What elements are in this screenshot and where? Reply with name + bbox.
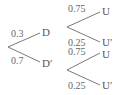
- node-D-U-prime: U′: [102, 37, 112, 48]
- node-D: D: [42, 27, 50, 38]
- branch-D-to-U: [67, 12, 100, 27]
- prob-D: 0.3: [11, 29, 24, 39]
- prob-D-prime: 0.7: [11, 56, 24, 66]
- node-D-U: U: [102, 6, 110, 17]
- node-D-prime: D′: [42, 58, 52, 69]
- prob-D-prime-U-prime: 0.25: [68, 81, 86, 91]
- prob-D-U: 0.75: [68, 4, 86, 14]
- prob-D-prime-U: 0.75: [68, 47, 86, 57]
- node-D-prime-U-prime: U′: [102, 80, 112, 91]
- node-D-prime-U: U: [102, 49, 110, 60]
